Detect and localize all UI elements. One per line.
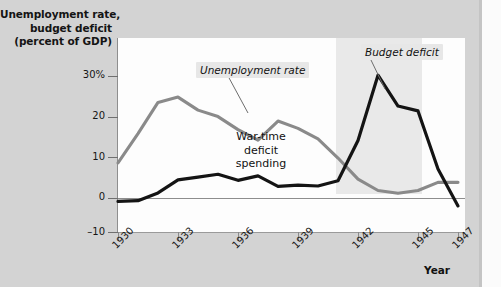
unemployment-rate-callout: Unemployment rate <box>196 62 309 78</box>
war-time-annotation-line-1: War-time <box>219 130 303 144</box>
leader-line-deficit <box>370 58 385 89</box>
leader-line-unemployment <box>228 76 248 113</box>
war-time-annotation: War-time deficit spending <box>219 130 303 171</box>
war-time-annotation-line-2: deficit <box>219 144 303 158</box>
war-time-annotation-line-3: spending <box>219 157 303 171</box>
chart-figure: Unemployment rate, budget deficit (perce… <box>0 0 501 287</box>
budget-deficit-callout: Budget deficit <box>361 44 443 60</box>
